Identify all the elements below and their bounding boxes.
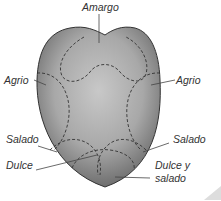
tongue-taste-diagram: Amargo Agrio Agrio Salado Salado Dulce D…	[0, 0, 221, 201]
label-dulce-y-salado-2: salado	[155, 173, 186, 184]
label-dulce: Dulce	[6, 160, 33, 171]
label-agrio-right: Agrio	[176, 75, 201, 86]
label-dulce-y-salado-1: Dulce y	[155, 160, 190, 171]
corner-decoration	[204, 186, 221, 200]
label-agrio-left: Agrio	[4, 75, 29, 86]
label-salado-left: Salado	[6, 134, 39, 145]
label-amargo: Amargo	[82, 2, 119, 13]
label-salado-right: Salado	[173, 134, 206, 145]
